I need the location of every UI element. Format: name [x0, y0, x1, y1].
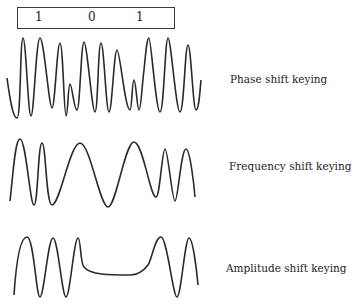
psk-waveform — [0, 30, 210, 125]
bit-3: 1 — [136, 10, 144, 24]
fsk-label: Frequency shift keying — [229, 160, 351, 172]
ask-label: Amplitude shift keying — [226, 262, 347, 274]
ask-waveform — [0, 225, 210, 305]
bit-2: 0 — [88, 10, 96, 24]
fsk-waveform — [0, 135, 210, 215]
bit-sequence-box: 1 0 1 — [17, 7, 175, 29]
psk-label: Phase shift keying — [230, 73, 327, 85]
bit-1: 1 — [35, 10, 43, 24]
